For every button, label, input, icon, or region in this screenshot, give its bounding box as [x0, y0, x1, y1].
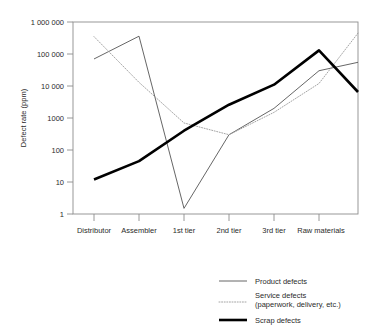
x-tick-labels: Distributor Assembler 1st tier 2nd tier … [77, 226, 345, 235]
legend-label-scrap-defects: Scrap defects [255, 316, 301, 325]
y-tick-label: 1 000 000 [31, 18, 64, 27]
y-tick-labels: 1 000 000 100 000 10 000 1000 100 10 1 [31, 18, 64, 219]
legend-label-product-defects: Product defects [255, 277, 307, 286]
chart-legend: Product defects Service defects (paperwo… [219, 277, 341, 325]
x-tick-label: Distributor [77, 226, 112, 235]
y-tick-label: 10 [56, 178, 64, 187]
plot-frame [73, 22, 358, 214]
x-tick-label: Assembler [121, 226, 157, 235]
x-tick-label: 2nd tier [216, 226, 242, 235]
y-axis-ticks [67, 22, 73, 214]
y-axis-title: Defect rate (ppm) [19, 88, 28, 147]
y-tick-label: 10 000 [41, 82, 64, 91]
y-tick-label: 100 [51, 146, 64, 155]
y-tick-label: 1000 [47, 114, 64, 123]
x-tick-label: Raw materials [297, 226, 345, 235]
legend-label-service-defects: Service defects [255, 291, 307, 300]
y-tick-label: 1 [60, 210, 64, 219]
chart-figure: 1 000 000 100 000 10 000 1000 100 10 1 D… [0, 0, 378, 328]
chart-svg: 1 000 000 100 000 10 000 1000 100 10 1 D… [0, 0, 378, 328]
y-tick-label: 100 000 [37, 50, 64, 59]
x-tick-label: 3rd tier [262, 226, 286, 235]
x-tick-label: 1st tier [173, 226, 196, 235]
x-axis-ticks [94, 214, 319, 221]
legend-label-service-defects-sub: (paperwork, delivery, etc.) [255, 300, 341, 309]
